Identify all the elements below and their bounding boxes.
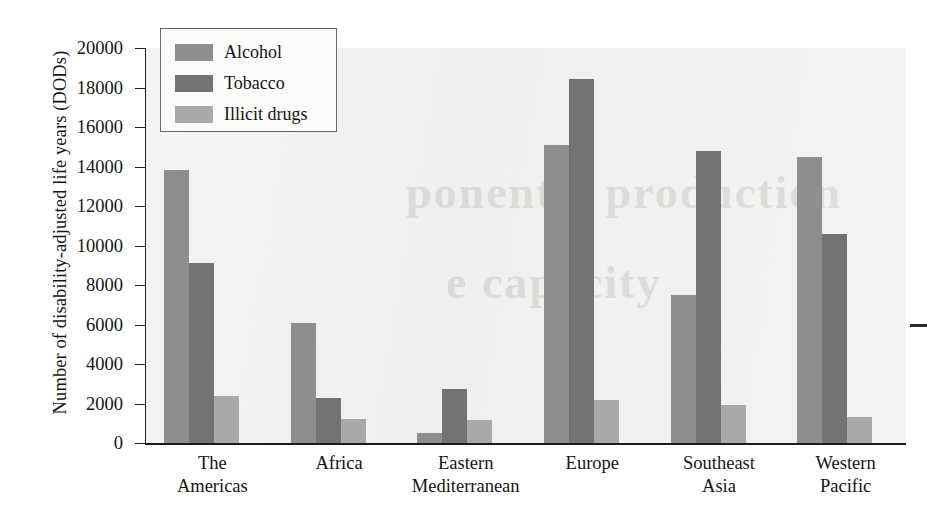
x-axis-label-line: Americas	[177, 475, 248, 498]
bar-chart-figure: Number of disability-adjusted life years…	[0, 0, 927, 524]
x-axis-label-europe: Europe	[566, 452, 619, 475]
legend-item-alcohol: Alcohol	[175, 38, 336, 66]
legend-item-tobacco: Tobacco	[175, 69, 336, 97]
page-edge-mark	[910, 324, 927, 327]
legend-label-illicit-drugs: Illicit drugs	[224, 104, 308, 125]
x-axis-category-labels: TheAmericasAfricaEasternMediterraneanEur…	[0, 0, 927, 524]
legend-label-tobacco: Tobacco	[224, 73, 285, 94]
legend-swatch-alcohol	[175, 44, 213, 61]
legend-swatch-tobacco	[175, 75, 213, 92]
chart-legend: Alcohol Tobacco Illicit drugs	[160, 28, 337, 132]
x-axis-label-line: Africa	[315, 452, 362, 475]
x-axis-label-the-americas: TheAmericas	[177, 452, 248, 498]
legend-item-illicit-drugs: Illicit drugs	[175, 100, 336, 128]
legend-label-alcohol: Alcohol	[224, 42, 282, 63]
x-axis-label-western-pacific: WesternPacific	[816, 452, 876, 498]
x-axis-label-africa: Africa	[315, 452, 362, 475]
x-axis-label-line: Eastern	[412, 452, 520, 475]
x-axis-label-line: Asia	[683, 475, 755, 498]
x-axis-label-southeast-asia: SoutheastAsia	[683, 452, 755, 498]
x-axis-label-line: Western	[816, 452, 876, 475]
x-axis-label-line: The	[177, 452, 248, 475]
x-axis-label-eastern-mediterranean: EasternMediterranean	[412, 452, 520, 498]
x-axis-label-line: Mediterranean	[412, 475, 520, 498]
x-axis-label-line: Southeast	[683, 452, 755, 475]
legend-swatch-illicit-drugs	[175, 106, 213, 123]
x-axis-label-line: Europe	[566, 452, 619, 475]
x-axis-label-line: Pacific	[816, 475, 876, 498]
